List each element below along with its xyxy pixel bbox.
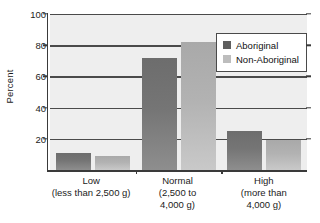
y-tick-label-20: 20 <box>16 133 46 144</box>
y-tick-label-80: 80 <box>16 40 46 51</box>
bar-0-1[interactable] <box>95 156 130 170</box>
bar-2-0[interactable] <box>227 131 262 170</box>
x-axis-line <box>47 170 307 172</box>
legend: AboriginalNon-Aboriginal <box>216 33 307 72</box>
legend-label-1: Non-Aboriginal <box>236 54 299 65</box>
y-tick-mark-right-80 <box>306 44 311 45</box>
legend-item-1[interactable]: Non-Aboriginal <box>223 52 299 66</box>
x-category-name-0: Low <box>48 175 134 187</box>
y-tick-mark-right-60 <box>306 76 311 77</box>
bar-0-0[interactable] <box>56 153 91 170</box>
x-category-sub1-0: (less than 2,500 g) <box>48 187 134 199</box>
y-tick-mark-20 <box>43 138 48 139</box>
y-tick-label-40: 40 <box>16 102 46 113</box>
y-tick-mark-100 <box>43 13 48 14</box>
bar-1-0[interactable] <box>142 58 177 170</box>
bar-2-1[interactable] <box>266 140 301 170</box>
x-category-sub2-1: 4,000 g) <box>134 199 220 211</box>
y-axis-title-label: Percent <box>4 69 15 103</box>
gridline-100 <box>50 14 307 15</box>
y-tick-label-60: 60 <box>16 71 46 82</box>
legend-item-0[interactable]: Aboriginal <box>223 38 299 52</box>
y-tick-mark-right-20 <box>306 138 311 139</box>
y-tick-mark-right-40 <box>306 107 311 108</box>
x-category-sub1-2: (more than <box>221 187 307 199</box>
x-category-name-1: Normal <box>134 175 220 187</box>
y-axis-tick-labels: 20406080100 <box>16 0 46 172</box>
x-category-sub2-2: 4,000 g) <box>221 199 307 211</box>
y-tick-mark-right-100 <box>306 13 311 14</box>
x-category-name-2: High <box>221 175 307 187</box>
y-tick-mark-80 <box>43 44 48 45</box>
x-tick-mark-1 <box>136 170 137 174</box>
x-category-sub1-1: (2,500 to <box>134 187 220 199</box>
legend-swatch-icon-1 <box>223 55 231 63</box>
bar-1-1[interactable] <box>181 42 216 170</box>
x-category-label-2: High(more than4,000 g) <box>221 175 307 223</box>
x-category-label-0: Low(less than 2,500 g) <box>48 175 134 223</box>
gridline-40 <box>50 108 307 109</box>
bar-chart: Percent 20406080100 AboriginalNon-Aborig… <box>0 0 320 223</box>
y-tick-mark-60 <box>43 76 48 77</box>
y-tick-label-100: 100 <box>16 9 46 20</box>
x-tick-mark-2 <box>221 170 222 174</box>
x-axis-category-labels: Low(less than 2,500 g)Normal(2,500 to4,0… <box>48 175 307 223</box>
gridline-60 <box>50 76 307 77</box>
legend-swatch-icon-0 <box>223 41 231 49</box>
x-category-label-1: Normal(2,500 to4,000 g) <box>134 175 220 223</box>
y-axis-line <box>47 13 48 171</box>
y-tick-mark-40 <box>43 107 48 108</box>
legend-label-0: Aboriginal <box>236 40 278 51</box>
